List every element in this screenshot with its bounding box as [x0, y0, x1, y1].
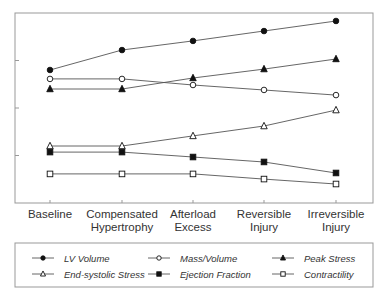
legend-label: Contractility	[304, 269, 355, 280]
series-line	[50, 21, 336, 70]
filled-circle-marker-icon	[190, 38, 196, 44]
filled-circle-marker-icon	[261, 28, 267, 34]
series-group	[47, 18, 339, 187]
open-circle-marker-icon	[47, 76, 53, 82]
legend-label: Mass/Volume	[180, 253, 237, 264]
y-axis-ticks	[15, 61, 19, 156]
legend-label: Ejection Fraction	[180, 269, 251, 280]
filled-square-marker-icon	[261, 159, 267, 165]
filled-circle-marker-icon	[47, 67, 53, 73]
x-label: Baseline	[28, 208, 72, 220]
filled-square-marker-icon	[190, 154, 196, 160]
open-circle-marker-icon	[190, 82, 196, 88]
legend-box	[15, 243, 373, 287]
chart-canvas: BaselineCompensatedHypertrophyAfterloadE…	[0, 0, 387, 295]
open-circle-marker-icon	[261, 87, 267, 93]
open-square-marker-icon	[333, 181, 339, 187]
open-square-marker-icon	[190, 171, 196, 177]
open-triangle-marker-icon	[333, 106, 339, 112]
series-end-systolic-stress	[47, 106, 339, 148]
open-square-marker-icon	[119, 171, 125, 177]
open-square-marker-icon	[281, 272, 285, 276]
series-contractility	[47, 171, 339, 187]
filled-circle-marker-icon	[41, 256, 45, 260]
open-circle-marker-icon	[119, 76, 125, 82]
filled-square-marker-icon	[47, 149, 53, 155]
legend-label: Peak Stress	[304, 253, 355, 264]
x-label: ReversibleInjury	[237, 208, 291, 233]
open-circle-marker-icon	[333, 92, 339, 98]
filled-square-marker-icon	[157, 272, 161, 276]
open-square-marker-icon	[261, 176, 267, 182]
open-square-marker-icon	[47, 171, 53, 177]
series-line	[50, 110, 336, 146]
legend-label: End-systolic Stress	[64, 269, 145, 280]
legend-label: LV Volume	[64, 253, 110, 264]
open-triangle-marker-icon	[47, 142, 53, 148]
filled-triangle-marker-icon	[333, 55, 339, 61]
filled-triangle-marker-icon	[47, 85, 53, 91]
open-circle-marker-icon	[157, 256, 161, 260]
filled-circle-marker-icon	[119, 47, 125, 53]
x-label: AfterloadExcess	[170, 208, 216, 233]
filled-square-marker-icon	[333, 170, 339, 176]
x-axis-labels: BaselineCompensatedHypertrophyAfterloadE…	[28, 208, 365, 233]
filled-square-marker-icon	[119, 149, 125, 155]
x-label: CompensatedHypertrophy	[86, 208, 158, 233]
filled-circle-marker-icon	[333, 18, 339, 24]
x-label: IrreversibleInjury	[308, 208, 365, 233]
